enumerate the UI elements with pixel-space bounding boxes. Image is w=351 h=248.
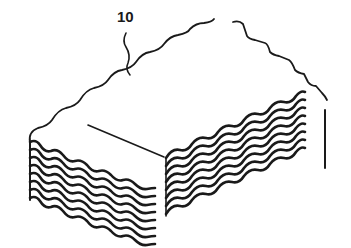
stacked-sheets-drawing	[0, 0, 351, 248]
sheet-edges-left	[30, 141, 155, 245]
sheet-edges-right	[166, 92, 305, 215]
sheet-stack	[30, 92, 325, 246]
top-back-left-edge	[30, 19, 214, 142]
top-back-right-edge	[233, 21, 327, 100]
reference-numeral-label: 10	[117, 8, 134, 25]
top-diagonal-line	[88, 125, 164, 157]
top-surface	[30, 19, 327, 142]
